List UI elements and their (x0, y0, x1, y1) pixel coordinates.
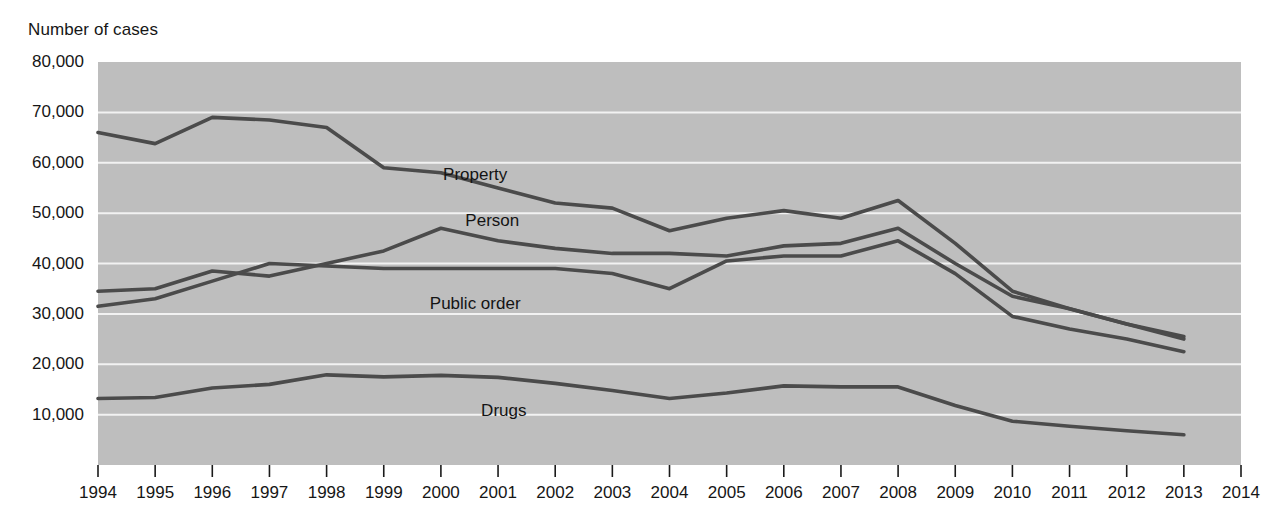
x-tick-label: 2006 (765, 483, 803, 503)
x-tick-label: 2003 (593, 483, 631, 503)
x-tick-label: 2010 (993, 483, 1031, 503)
x-tick-label: 1997 (250, 483, 288, 503)
line-chart-figure: Number of cases 10,00020,00030,00040,000… (0, 0, 1273, 513)
x-tick-label: 1994 (79, 483, 117, 503)
x-tick-label: 1999 (365, 483, 403, 503)
x-tick-label: 1996 (193, 483, 231, 503)
series-label-drugs: Drugs (481, 401, 526, 421)
x-tick-label: 2007 (822, 483, 860, 503)
x-tick-label: 2004 (651, 483, 689, 503)
x-tick-label: 2012 (1108, 483, 1146, 503)
series-label-public-order: Public order (430, 294, 521, 314)
x-tick-label: 1998 (308, 483, 346, 503)
x-tick-label: 2000 (422, 483, 460, 503)
x-tick-label: 2009 (936, 483, 974, 503)
x-tick-label: 1995 (136, 483, 174, 503)
x-tick-label: 2005 (708, 483, 746, 503)
x-tick-label: 2008 (879, 483, 917, 503)
x-tick-label: 2013 (1165, 483, 1203, 503)
series-label-property: Property (443, 165, 507, 185)
x-tick-label: 2002 (536, 483, 574, 503)
x-tick-label: 2001 (479, 483, 517, 503)
x-tick-label: 2011 (1051, 483, 1088, 503)
series-label-person: Person (465, 211, 519, 231)
x-axis-tick-labels: 1994199519961997199819992000200120022003… (0, 0, 1273, 513)
x-tick-label: 2014 (1222, 483, 1260, 503)
